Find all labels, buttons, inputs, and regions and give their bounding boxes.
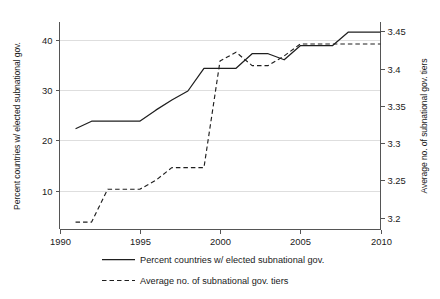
legend-label-percent: Percent countries w/ elected subnational… bbox=[140, 255, 324, 265]
y-tick-label: 10 bbox=[42, 186, 52, 197]
y-tick-label: 30 bbox=[42, 85, 52, 96]
y2-tick-label: 3.2 bbox=[388, 213, 401, 224]
x-tick-label: 2000 bbox=[210, 236, 231, 247]
y2-tick-label: 3.25 bbox=[388, 175, 406, 186]
y-tick-label: 40 bbox=[42, 35, 52, 46]
x-tick-label: 2005 bbox=[290, 236, 311, 247]
y2-axis-title: Average no. of subnational gov. tiers bbox=[419, 58, 429, 193]
legend-label-tiers: Average no. of subnational gov. tiers bbox=[140, 276, 289, 286]
y2-tick-label: 3.45 bbox=[388, 26, 406, 37]
y2-tick-label: 3.35 bbox=[388, 101, 406, 112]
y2-tick-label: 3.3 bbox=[388, 138, 401, 149]
y-axis-title: Percent countries w/ elected subnational… bbox=[12, 42, 22, 210]
chart-figure: 10203040 3.23.253.33.353.43.45 199019952… bbox=[0, 0, 440, 299]
y2-tick-label: 3.4 bbox=[388, 64, 401, 75]
x-tick-label: 2010 bbox=[371, 236, 392, 247]
x-tick-label: 1990 bbox=[50, 236, 71, 247]
x-tick-label: 1995 bbox=[130, 236, 151, 247]
y-tick-label: 20 bbox=[42, 135, 52, 146]
